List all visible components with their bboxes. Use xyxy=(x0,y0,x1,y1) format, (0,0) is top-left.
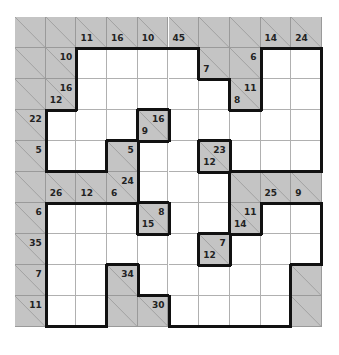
entry-cell[interactable] xyxy=(76,141,107,172)
entry-cell[interactable] xyxy=(199,79,230,110)
across-clue: 6 xyxy=(35,208,41,217)
entry-cell[interactable] xyxy=(261,48,292,79)
entry-cell[interactable] xyxy=(46,234,77,265)
entry-cell[interactable] xyxy=(230,234,261,265)
region-border xyxy=(75,47,78,80)
region-border xyxy=(198,325,231,328)
entry-cell[interactable] xyxy=(291,203,322,234)
entry-cell[interactable] xyxy=(261,79,292,110)
clue-cell xyxy=(230,172,261,203)
clue-cell: 35 xyxy=(15,234,46,265)
region-border xyxy=(229,325,262,328)
region-border xyxy=(168,109,171,142)
entry-cell[interactable] xyxy=(169,265,200,296)
entry-cell[interactable] xyxy=(291,48,322,79)
entry-cell[interactable] xyxy=(291,110,322,141)
clue-cell: 7 xyxy=(199,48,230,79)
entry-cell[interactable] xyxy=(76,234,107,265)
entry-cell[interactable] xyxy=(261,265,292,296)
region-border xyxy=(137,233,170,236)
entry-cell[interactable] xyxy=(107,48,138,79)
diagonal-divider-icon xyxy=(230,172,260,202)
region-border xyxy=(45,325,78,328)
entry-cell[interactable] xyxy=(169,172,200,203)
entry-cell[interactable] xyxy=(169,296,200,327)
entry-cell[interactable] xyxy=(138,48,169,79)
entry-cell[interactable] xyxy=(107,234,138,265)
entry-cell[interactable] xyxy=(199,265,230,296)
entry-cell[interactable] xyxy=(230,110,261,141)
entry-cell[interactable] xyxy=(291,234,322,265)
region-border xyxy=(168,295,171,328)
clue-cell xyxy=(15,79,46,110)
diagonal-divider-icon xyxy=(291,265,321,295)
entry-cell[interactable] xyxy=(230,141,261,172)
clue-cell: 24 xyxy=(291,17,322,48)
entry-cell[interactable] xyxy=(199,172,230,203)
entry-cell[interactable] xyxy=(261,296,292,327)
entry-cell[interactable] xyxy=(230,296,261,327)
entry-cell[interactable] xyxy=(76,110,107,141)
entry-cell[interactable] xyxy=(261,141,292,172)
region-border xyxy=(45,109,48,142)
entry-cell[interactable] xyxy=(46,296,77,327)
clue-cell xyxy=(46,17,77,48)
entry-cell[interactable] xyxy=(76,48,107,79)
entry-cell[interactable] xyxy=(199,110,230,141)
down-clue: 25 xyxy=(265,189,278,198)
entry-cell[interactable] xyxy=(138,234,169,265)
entry-cell[interactable] xyxy=(169,79,200,110)
across-clue: 30 xyxy=(152,301,165,310)
region-border xyxy=(137,108,170,111)
region-border xyxy=(290,263,323,266)
region-border xyxy=(45,264,48,297)
entry-cell[interactable] xyxy=(46,265,77,296)
entry-cell[interactable] xyxy=(138,265,169,296)
diagonal-divider-icon xyxy=(291,296,321,326)
across-clue: 5 xyxy=(35,146,41,155)
entry-cell[interactable] xyxy=(230,265,261,296)
entry-cell[interactable] xyxy=(261,203,292,234)
diagonal-divider-icon xyxy=(107,296,137,326)
down-clue: 12 xyxy=(80,189,93,198)
region-border xyxy=(45,295,48,328)
region-border xyxy=(320,202,323,235)
entry-cell[interactable] xyxy=(138,79,169,110)
region-border xyxy=(45,109,78,112)
entry-cell[interactable] xyxy=(291,141,322,172)
region-border xyxy=(198,171,231,174)
entry-cell[interactable] xyxy=(199,203,230,234)
entry-cell[interactable] xyxy=(138,172,169,203)
entry-cell[interactable] xyxy=(107,110,138,141)
region-border xyxy=(137,140,140,173)
entry-cell[interactable] xyxy=(138,141,169,172)
region-border xyxy=(320,233,323,266)
entry-cell[interactable] xyxy=(107,203,138,234)
clue-cell: 10 xyxy=(138,17,169,48)
entry-cell[interactable] xyxy=(76,265,107,296)
clue-cell: 712 xyxy=(199,234,230,265)
clue-cell: 45 xyxy=(169,17,200,48)
entry-cell[interactable] xyxy=(169,141,200,172)
entry-cell[interactable] xyxy=(199,296,230,327)
entry-cell[interactable] xyxy=(107,79,138,110)
entry-cell[interactable] xyxy=(46,110,77,141)
entry-cell[interactable] xyxy=(291,79,322,110)
clue-cell xyxy=(291,265,322,296)
entry-cell[interactable] xyxy=(169,48,200,79)
region-border xyxy=(260,202,263,235)
entry-cell[interactable] xyxy=(46,141,77,172)
entry-cell[interactable] xyxy=(261,110,292,141)
entry-cell[interactable] xyxy=(46,203,77,234)
entry-cell[interactable] xyxy=(169,203,200,234)
entry-cell[interactable] xyxy=(169,234,200,265)
entry-cell[interactable] xyxy=(76,296,107,327)
entry-cell[interactable] xyxy=(169,110,200,141)
down-clue: 45 xyxy=(173,34,186,43)
region-border xyxy=(75,47,108,50)
entry-cell[interactable] xyxy=(76,203,107,234)
entry-cell[interactable] xyxy=(261,234,292,265)
entry-cell[interactable] xyxy=(76,79,107,110)
clue-cell xyxy=(15,17,46,48)
clue-cell: 1114 xyxy=(230,203,261,234)
